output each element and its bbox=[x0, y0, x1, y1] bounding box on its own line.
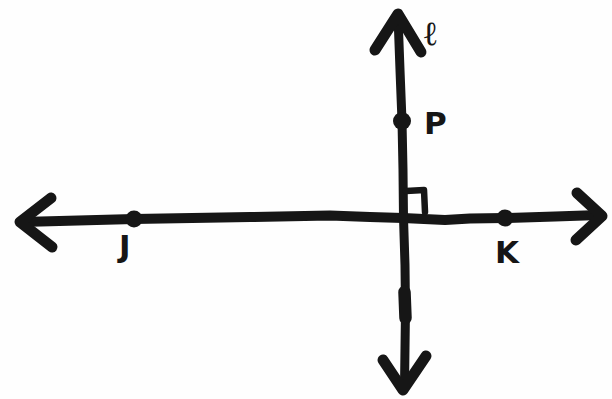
line-l-label: ℓ bbox=[424, 13, 437, 53]
diagram-canvas: ℓ P J K bbox=[0, 0, 612, 399]
point-k-dot bbox=[497, 210, 514, 227]
diagram-background bbox=[0, 0, 612, 399]
line-l-ink-blob bbox=[405, 292, 406, 318]
point-j-label: J bbox=[117, 228, 131, 264]
point-p-dot bbox=[393, 112, 411, 130]
point-p-label: P bbox=[424, 105, 447, 141]
point-k-label: K bbox=[495, 234, 520, 270]
point-j-dot bbox=[126, 211, 143, 228]
